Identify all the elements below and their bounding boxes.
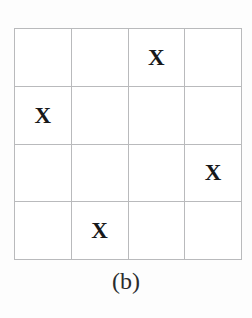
grid-cell-r4c1[interactable] (15, 202, 72, 260)
grid-cell-r1c2[interactable] (71, 29, 128, 87)
cell-mark-x: X (15, 104, 71, 127)
grid-cell-r2c3[interactable] (128, 86, 185, 144)
grid-cell-r4c2[interactable]: X (71, 202, 128, 260)
grid-cell-r2c4[interactable] (185, 86, 242, 144)
cell-mark-x: X (129, 46, 185, 69)
grid-cell-r2c2[interactable] (71, 86, 128, 144)
grid-cell-r3c4[interactable]: X (185, 144, 242, 202)
figure-container: X X (0, 0, 252, 318)
grid-row: X (15, 144, 242, 202)
grid-cell-r4c3[interactable] (128, 202, 185, 260)
grid-row: X (15, 29, 242, 87)
grid-cell-r1c1[interactable] (15, 29, 72, 87)
grid-body: X X (15, 29, 242, 260)
grid-cell-r3c1[interactable] (15, 144, 72, 202)
grid-cell-r2c1[interactable]: X (15, 86, 72, 144)
grid-row: X (15, 202, 242, 260)
figure-caption: (b) (0, 264, 252, 298)
cell-mark-x: X (72, 219, 128, 242)
grid-board: X X (14, 28, 242, 260)
grid-row: X (15, 86, 242, 144)
grid-cell-r1c4[interactable] (185, 29, 242, 87)
grid-cell-r4c4[interactable] (185, 202, 242, 260)
grid-cell-r1c3[interactable]: X (128, 29, 185, 87)
grid-cell-r3c2[interactable] (71, 144, 128, 202)
cell-mark-x: X (185, 161, 241, 184)
grid-cell-r3c3[interactable] (128, 144, 185, 202)
